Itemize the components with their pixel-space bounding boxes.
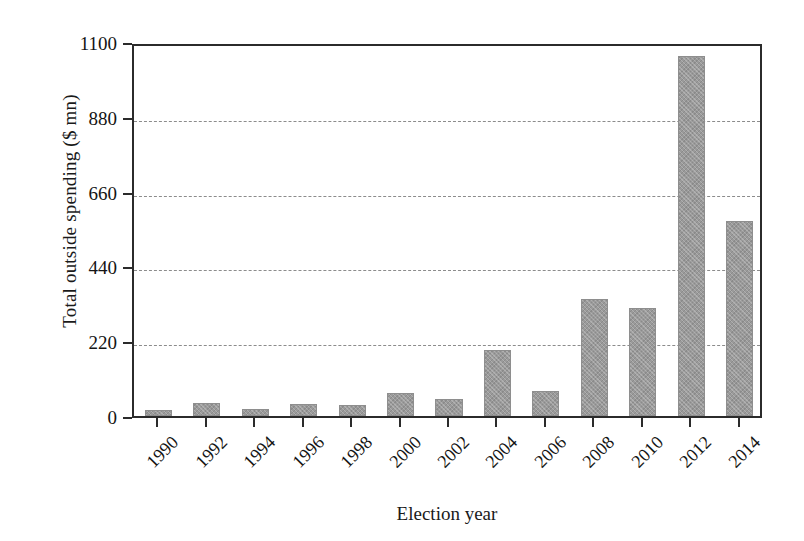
x-axis-tick-mark bbox=[302, 418, 304, 427]
bar bbox=[581, 299, 608, 416]
y-axis-tick-label: 1100 bbox=[51, 34, 117, 53]
bar bbox=[532, 391, 559, 416]
bar bbox=[629, 308, 656, 416]
y-axis-tick-label: 0 bbox=[51, 408, 117, 427]
x-axis-title: Election year bbox=[132, 503, 762, 525]
bar bbox=[387, 393, 414, 416]
x-axis-tick-mark bbox=[689, 418, 691, 427]
bar bbox=[242, 409, 269, 416]
x-axis-tick-mark bbox=[253, 418, 255, 427]
bar bbox=[678, 56, 705, 416]
bar bbox=[726, 221, 753, 416]
gridline bbox=[134, 270, 760, 271]
y-axis-tick-mark bbox=[123, 43, 132, 45]
bar bbox=[435, 399, 462, 416]
x-axis-tick-mark bbox=[447, 418, 449, 427]
y-axis-tick-mark bbox=[123, 267, 132, 269]
bar bbox=[193, 403, 220, 416]
bar bbox=[339, 405, 366, 416]
y-axis-tick-label: 220 bbox=[51, 333, 117, 352]
gridline bbox=[134, 196, 760, 197]
y-axis-tick-mark bbox=[123, 118, 132, 120]
x-axis-tick-mark bbox=[641, 418, 643, 427]
x-axis-tick-mark bbox=[156, 418, 158, 427]
x-axis-tick-mark bbox=[495, 418, 497, 427]
x-axis-tick-mark bbox=[544, 418, 546, 427]
bar bbox=[484, 350, 511, 416]
x-axis-tick-mark bbox=[399, 418, 401, 427]
y-axis-tick-label: 660 bbox=[51, 184, 117, 203]
y-axis-tick-label: 880 bbox=[51, 109, 117, 128]
y-axis-tick-mark bbox=[123, 342, 132, 344]
x-axis-tick-mark bbox=[738, 418, 740, 427]
bar bbox=[290, 404, 317, 416]
gridline bbox=[134, 345, 760, 346]
plot-area bbox=[132, 44, 762, 418]
x-axis-tick-mark bbox=[592, 418, 594, 427]
x-axis-tick-mark bbox=[205, 418, 207, 427]
x-axis-tick-mark bbox=[350, 418, 352, 427]
gridline bbox=[134, 121, 760, 122]
bar-chart-figure: Total outside spending ($ mn) 0220440660… bbox=[0, 0, 804, 541]
y-axis-tick-label: 440 bbox=[51, 258, 117, 277]
bar bbox=[145, 410, 172, 416]
y-axis-tick-mark bbox=[123, 193, 132, 195]
y-axis-tick-mark bbox=[123, 417, 132, 419]
